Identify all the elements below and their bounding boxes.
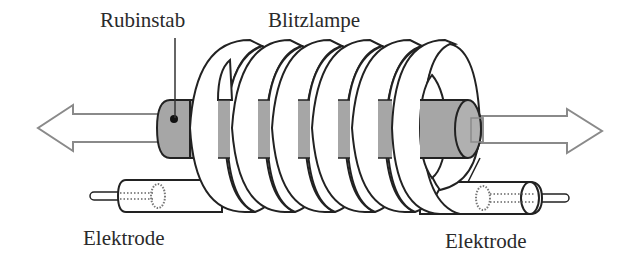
label-rubinstab: Rubinstab [100,10,185,31]
diagram-canvas [0,0,631,257]
flash-lamp-coil [190,40,483,214]
label-elektrode-left: Elektrode [83,228,165,249]
arrow-left-icon [38,105,160,151]
label-blitzlampe: Blitzlampe [268,10,360,31]
ruby-laser-diagram: Rubinstab Blitzlampe Elektrode Elektrode [0,0,631,257]
label-elektrode-right: Elektrode [445,231,527,252]
arrow-right-icon [472,109,602,153]
